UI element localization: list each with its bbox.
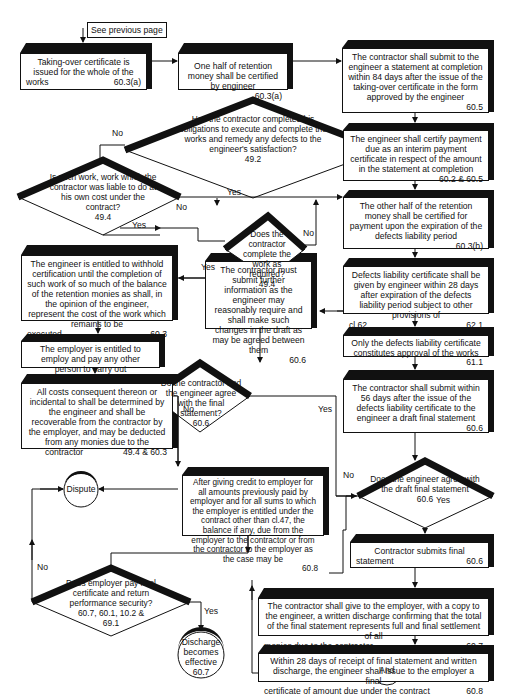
label-no: No — [176, 202, 187, 212]
box-employer-employ-other: The employer is entitled to employ and p… — [21, 341, 160, 368]
label-no: No — [183, 404, 194, 414]
terminal-and: And — [372, 665, 402, 675]
box-all-costs: All costs consequent thereon or incident… — [21, 383, 173, 449]
box-draft-final-statement: The contractor shall submit within 56 da… — [343, 379, 489, 433]
box-only-defects-certificate: Only the defects liability certificate c… — [343, 335, 489, 357]
label-no: No — [112, 128, 123, 138]
label-no: No — [343, 470, 354, 480]
see-previous-page-note: See previous page — [87, 22, 167, 38]
decision-completed-obligations: Has the contractor completed his obligat… — [160, 114, 346, 164]
decision-complete-as-required: Does the contractor complete the work as… — [228, 229, 306, 289]
decision-employer-pay: Does employer pay final certificate and … — [50, 578, 172, 628]
decision-liable-work: Is such work, work which the contractor … — [32, 172, 174, 222]
label-yes: Yes — [201, 262, 215, 272]
box-other-half-retention: The other half of the retention money sh… — [343, 197, 489, 249]
label-yes: Yes — [318, 404, 332, 414]
box-written-discharge: The contractor shall give to the employe… — [258, 598, 489, 636]
terminal-discharge-effective: Discharge becomes effective 60.7 — [180, 637, 222, 677]
box-contractor-submits-final: Contractor submits final statement60.6 — [350, 542, 489, 568]
label-no: No — [37, 562, 48, 572]
box-statement-at-completion: The contractor shall submit to the engin… — [342, 48, 489, 113]
label-yes: Yes — [227, 187, 241, 197]
terminal-dispute: Dispute — [64, 484, 98, 494]
flowchart: See previous page Taking-over certificat… — [0, 0, 510, 698]
decision-agree-draft: Does the engineer agree with the draft f… — [362, 474, 488, 504]
box-defects-liability-certificate: Defects liability certificate shall be g… — [343, 266, 489, 314]
box-half-retention: One half of retention money shall be cer… — [178, 53, 288, 90]
label-yes: Yes — [132, 220, 146, 230]
label-yes: Yes — [204, 606, 218, 616]
decision-agree-final-statement: Do the contractor and the engineer agree… — [160, 378, 242, 428]
box-engineer-withhold: The engineer is entitled to withhold cer… — [21, 255, 173, 321]
box-interim-payment: The engineer shall certify payment due a… — [343, 130, 489, 181]
box-after-giving-credit: After giving credit to employer for all … — [182, 475, 324, 536]
box-text: Taking-over certificate is issued for th… — [33, 57, 133, 77]
box-taking-over-certificate: Taking-over certificate is issued for th… — [20, 53, 147, 90]
label-no: No — [303, 228, 314, 238]
label-yes: Yes — [436, 495, 450, 505]
